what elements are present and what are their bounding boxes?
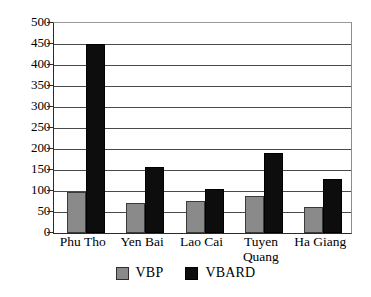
bar-vbp xyxy=(186,201,205,233)
y-axis-tick-mark xyxy=(47,148,53,149)
bar-chart: 050100150200250300350400450500 Phu ThoYe… xyxy=(0,0,371,297)
legend-item-vbp[interactable]: VBP xyxy=(116,266,164,280)
bar-vbard xyxy=(264,153,283,233)
y-axis-tick-mark xyxy=(47,106,53,107)
y-axis-tick-label: 400 xyxy=(4,57,50,70)
bar-vbp xyxy=(304,207,323,233)
legend-label: VBP xyxy=(136,266,164,280)
y-axis: 050100150200250300350400450500 xyxy=(0,0,50,297)
bar-vbard xyxy=(145,167,164,233)
bar-vbard xyxy=(205,189,224,233)
y-axis-tick-mark xyxy=(47,64,53,65)
legend-label: VBARD xyxy=(205,266,255,280)
y-axis-tick-mark xyxy=(47,211,53,212)
plot-area xyxy=(53,22,352,234)
legend-item-vbard[interactable]: VBARD xyxy=(185,266,255,280)
y-axis-tick-mark xyxy=(47,127,53,128)
y-axis-tick-label: 250 xyxy=(4,120,50,133)
y-axis-tick-label: 350 xyxy=(4,78,50,91)
black-swatch-icon xyxy=(185,267,198,280)
bar-vbp xyxy=(245,196,264,233)
bar-group xyxy=(245,23,283,233)
gray-swatch-icon xyxy=(116,267,129,280)
bar-group xyxy=(126,23,164,233)
y-axis-tick-mark xyxy=(47,22,53,23)
bar-group xyxy=(304,23,342,233)
bar-group xyxy=(67,23,105,233)
y-axis-tick-label: 0 xyxy=(4,225,50,238)
chart-legend: VBPVBARD xyxy=(0,266,371,280)
y-axis-tick-mark xyxy=(47,232,53,233)
y-axis-tick-label: 150 xyxy=(4,162,50,175)
y-axis-tick-mark xyxy=(47,43,53,44)
x-axis-tick-label: Ha Giang xyxy=(285,234,356,249)
bar-vbp xyxy=(126,203,145,233)
y-axis-tick-mark xyxy=(47,190,53,191)
y-axis-tick-mark xyxy=(47,85,53,86)
bar-vbp xyxy=(67,192,86,233)
y-axis-tick-label: 200 xyxy=(4,141,50,154)
y-axis-tick-label: 500 xyxy=(4,15,50,28)
y-axis-tick-label: 450 xyxy=(4,36,50,49)
y-axis-tick-label: 50 xyxy=(4,204,50,217)
y-axis-tick-label: 100 xyxy=(4,183,50,196)
bar-vbard xyxy=(323,179,342,233)
bar-group xyxy=(186,23,224,233)
bar-vbard xyxy=(86,44,105,233)
y-axis-tick-mark xyxy=(47,169,53,170)
y-axis-tick-label: 300 xyxy=(4,99,50,112)
